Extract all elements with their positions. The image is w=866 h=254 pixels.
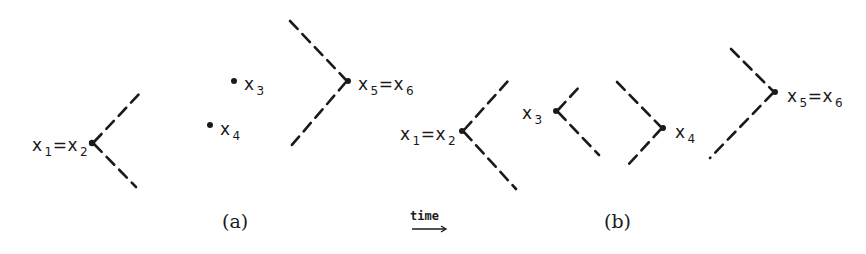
label-b-x5x6: x5=x6 — [787, 88, 843, 109]
cone-b-x1x2-upper — [464, 81, 508, 130]
light-cone-diagram: x1=x2 x3 x4 x5=x6 (a) time x1=x2 x3 x4 x… — [0, 0, 866, 254]
label-a-x4: x4 — [220, 121, 241, 142]
cone-b-x3-upper — [558, 85, 581, 110]
cone-b-x5x6-lower — [710, 93, 773, 158]
label-b-x1x2: x1=x2 — [400, 126, 456, 147]
point-a-x5x6 — [345, 78, 351, 84]
cone-b-x5x6-upper — [731, 49, 773, 91]
cone-a-x1x2-upper — [94, 92, 141, 142]
cone-b-x4-lower — [627, 129, 661, 166]
point-b-x5x6 — [772, 89, 778, 95]
cone-a-x5x6-upper — [290, 21, 346, 80]
point-a-x4 — [207, 122, 213, 128]
label-b-x4: x4 — [675, 124, 696, 145]
label-a-x5x6: x5=x6 — [358, 76, 414, 97]
point-b-x1x2 — [459, 128, 465, 134]
caption-a: (a) — [222, 212, 248, 231]
cone-a-x1x2-lower — [94, 144, 136, 187]
point-a-x3 — [231, 78, 237, 84]
point-b-x3 — [553, 108, 559, 114]
cone-a-x5x6-lower — [291, 82, 346, 146]
cone-b-x1x2-lower — [464, 132, 516, 189]
point-b-x4 — [660, 125, 666, 131]
caption-b: (b) — [604, 212, 631, 231]
label-a-x3: x3 — [244, 76, 265, 97]
cone-b-x3-lower — [558, 112, 599, 155]
cone-b-x4-upper — [617, 82, 661, 127]
time-label: time — [410, 210, 439, 222]
point-a-x1x2 — [89, 140, 95, 146]
label-b-x3: x3 — [522, 105, 543, 126]
label-a-x1x2: x1=x2 — [32, 137, 88, 158]
